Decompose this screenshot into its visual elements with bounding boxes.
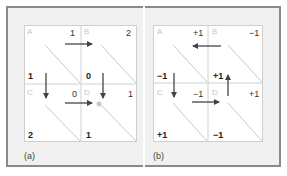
- cell-b-payoff-top: −1: [249, 28, 259, 38]
- grid-b: [153, 25, 263, 142]
- cell-c-payoff-top: −1: [193, 89, 203, 99]
- cell-a-payoff-bottom: −1: [157, 71, 167, 81]
- panel-b: A +1 −1 B −1 +1 C −1 +1 D +1 −1 (b): [0, 0, 287, 176]
- cell-c-payoff-bottom: +1: [157, 130, 167, 140]
- cell-b-payoff-bottom: +1: [213, 71, 223, 81]
- cell-a-letter: A: [157, 27, 162, 36]
- cell-d-letter: D: [212, 88, 218, 97]
- cell-c-letter: C: [157, 88, 163, 97]
- cell-d-payoff-bottom: −1: [213, 130, 223, 140]
- cell-d-payoff-top: +1: [249, 89, 259, 99]
- panel-b-label: (b): [153, 151, 164, 161]
- cell-a-payoff-top: +1: [193, 28, 203, 38]
- cell-b-letter: B: [212, 27, 217, 36]
